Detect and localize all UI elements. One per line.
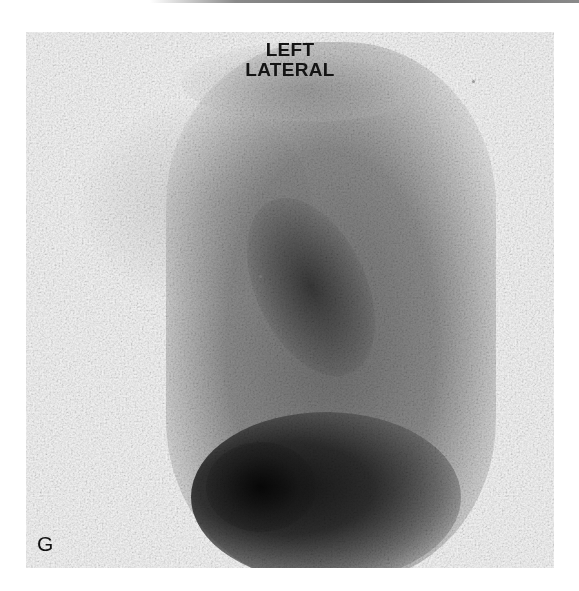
scan-noise-texture	[26, 32, 554, 568]
view-label-line1: LEFT	[26, 40, 554, 60]
view-label: LEFT LATERAL	[26, 40, 554, 80]
panel-letter: G	[37, 532, 53, 556]
view-label-line2: LATERAL	[26, 60, 554, 80]
top-border-rule	[150, 0, 579, 3]
scan-speck	[259, 275, 262, 278]
figure-panel: LEFT LATERAL	[26, 32, 554, 568]
scan-image	[26, 32, 554, 568]
scan-speck	[472, 80, 475, 83]
